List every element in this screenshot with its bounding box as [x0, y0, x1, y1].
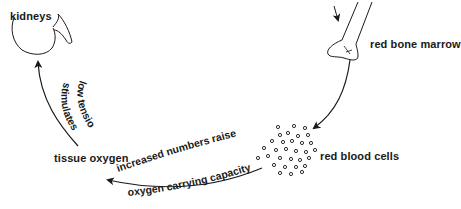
input-arrow [334, 6, 338, 20]
node-tissue-oxygen: tissue oxygen [54, 152, 129, 164]
edge-label-increased-numbers: increased numbers raise [115, 127, 238, 174]
node-red-bone-marrow: red bone marrow [370, 38, 461, 50]
bone-icon [328, 2, 372, 60]
edge-label-oxygen-capacity: oxygen carrying capacity [127, 161, 252, 198]
node-kidneys: kidneys [10, 10, 52, 22]
tissue-to-kidneys-arrow [38, 62, 78, 146]
red-blood-cells-icon [256, 124, 316, 175]
node-red-blood-cells: red blood cells [320, 150, 399, 162]
marrow-to-cells-arrow [314, 60, 350, 128]
